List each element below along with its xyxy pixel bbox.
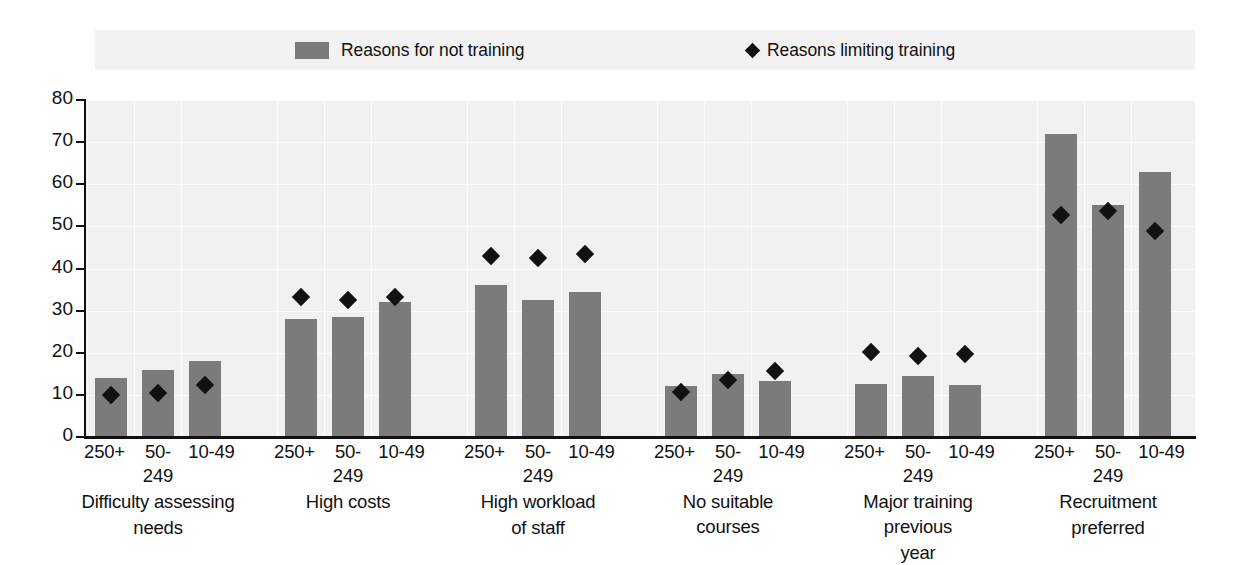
size-class-label: 250+ — [81, 440, 128, 488]
legend-label-bars: Reasons for not training — [341, 40, 524, 61]
bar — [522, 300, 554, 437]
size-class-label: 250+ — [651, 440, 698, 488]
size-class-label: 50-249 — [135, 440, 182, 488]
bar — [855, 384, 887, 437]
x-axis-group-3: 250+50-24910-49High workloadof staff — [461, 440, 615, 540]
y-axis-tick-label: 60 — [33, 171, 73, 193]
diamond-marker — [339, 291, 357, 309]
gridline-vertical — [371, 100, 372, 437]
size-class-label: 250+ — [1031, 440, 1078, 488]
filled-diamond-icon — [745, 42, 761, 58]
diamond-marker — [862, 343, 880, 361]
gridline-vertical — [1131, 100, 1132, 437]
bar — [1045, 134, 1077, 437]
gridline-vertical — [324, 100, 325, 437]
size-class-row: 250+50-24910-49 — [651, 440, 805, 488]
gridline-vertical — [941, 100, 942, 437]
bar — [569, 292, 601, 437]
gridline-vertical — [704, 100, 705, 437]
x-axis-group-6: 250+50-24910-49Recruitmentpreferred — [1031, 440, 1185, 540]
bar — [949, 385, 981, 437]
y-axis-tick — [76, 268, 85, 270]
y-axis-tick — [76, 436, 85, 438]
gridline-vertical — [751, 100, 752, 437]
y-axis-tick-label: 20 — [33, 340, 73, 362]
gridline-vertical — [181, 100, 182, 437]
diamond-marker — [766, 361, 784, 379]
size-class-label: 50-249 — [515, 440, 562, 488]
diamond-marker — [909, 347, 927, 365]
y-axis-tick — [76, 352, 85, 354]
group-category-label: preferred — [1031, 515, 1185, 540]
bar — [285, 319, 317, 437]
y-axis-tick-label: 10 — [33, 382, 73, 404]
y-axis-tick — [76, 99, 85, 101]
size-class-label: 250+ — [841, 440, 888, 488]
size-class-row: 250+50-24910-49 — [1031, 440, 1185, 488]
group-category-label: No suitable courses — [651, 489, 805, 539]
x-axis-labels: 250+50-24910-49Difficulty assessingneeds… — [0, 440, 1235, 553]
size-class-label: 10-49 — [1138, 440, 1185, 488]
gridline-horizontal — [85, 395, 1195, 396]
y-axis-tick — [76, 183, 85, 185]
filled-square-icon — [295, 42, 329, 59]
bar — [1139, 172, 1171, 437]
gridline-vertical — [87, 100, 88, 437]
y-axis-tick-label: 50 — [33, 213, 73, 235]
size-class-label: 50-249 — [1085, 440, 1132, 488]
chart-legend: Reasons for not training Reasons limitin… — [95, 30, 1195, 70]
gridline-horizontal — [85, 100, 1195, 101]
gridline-horizontal — [85, 269, 1195, 270]
gridline-vertical — [1084, 100, 1085, 437]
group-category-label: High workload — [461, 489, 615, 514]
group-category-label: needs — [81, 515, 235, 540]
gridline-horizontal — [85, 226, 1195, 227]
bar — [142, 370, 174, 437]
diamond-marker — [576, 245, 594, 263]
size-class-row: 250+50-24910-49 — [271, 440, 425, 488]
diamond-marker — [482, 247, 500, 265]
size-class-row: 250+50-24910-49 — [841, 440, 995, 488]
y-axis-tick-label: 30 — [33, 298, 73, 320]
size-class-label: 250+ — [461, 440, 508, 488]
diamond-marker — [956, 345, 974, 363]
size-class-row: 250+50-24910-49 — [461, 440, 615, 488]
gridline-horizontal — [85, 142, 1195, 143]
x-axis-group-5: 250+50-24910-49Major training previousye… — [841, 440, 995, 565]
size-class-label: 10-49 — [758, 440, 805, 488]
bar — [189, 361, 221, 437]
group-category-label: Major training previous — [841, 489, 995, 539]
x-axis-line — [84, 436, 1196, 439]
diamond-marker — [529, 249, 547, 267]
gridline-vertical — [1037, 100, 1038, 437]
gridline-vertical — [134, 100, 135, 437]
gridline-vertical — [894, 100, 895, 437]
size-class-label: 10-49 — [188, 440, 235, 488]
x-axis-group-4: 250+50-24910-49No suitable courses — [651, 440, 805, 539]
x-axis-group-2: 250+50-24910-49High costs — [271, 440, 425, 514]
y-axis-tick-label: 80 — [33, 87, 73, 109]
bar — [475, 285, 507, 437]
legend-entry-bars: Reasons for not training — [295, 38, 524, 62]
bar — [379, 302, 411, 437]
gridline-horizontal — [85, 311, 1195, 312]
diamond-marker — [292, 288, 310, 306]
bar — [902, 376, 934, 437]
gridline-vertical — [847, 100, 848, 437]
y-axis-tick — [76, 225, 85, 227]
gridline-vertical — [467, 100, 468, 437]
y-axis-tick-label: 70 — [33, 129, 73, 151]
size-class-label: 50-249 — [895, 440, 942, 488]
gridline-vertical — [561, 100, 562, 437]
legend-entry-diamonds: Reasons limiting training — [745, 38, 955, 62]
size-class-label: 10-49 — [378, 440, 425, 488]
legend-label-diamonds: Reasons limiting training — [767, 40, 955, 61]
gridline-vertical — [657, 100, 658, 437]
size-class-label: 50-249 — [325, 440, 372, 488]
y-axis-tick — [76, 394, 85, 396]
gridline-vertical — [277, 100, 278, 437]
size-class-label: 10-49 — [948, 440, 995, 488]
bar — [1092, 205, 1124, 437]
group-category-label: of staff — [461, 515, 615, 540]
y-axis-tick-label: 40 — [33, 256, 73, 278]
